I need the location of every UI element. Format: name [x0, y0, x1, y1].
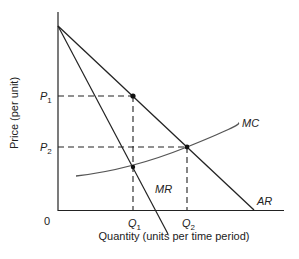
x-axis-label: Quantity (units per time period): [98, 230, 249, 242]
mc-curve: [76, 123, 239, 176]
origin-label: 0: [44, 215, 50, 227]
mc-label: MC: [242, 117, 259, 129]
mc-mr-point: [131, 165, 135, 169]
mr-line: [58, 26, 168, 234]
p1-point: [130, 93, 135, 98]
p2-point: [185, 145, 190, 150]
ar-label: AR: [256, 195, 272, 207]
y-axis-label: Price (per unit): [8, 77, 20, 149]
monopoly-diagram: Price (per unit) Quantity (units per tim…: [0, 0, 299, 259]
p1-label: P1: [40, 90, 52, 105]
mr-label: MR: [155, 183, 172, 195]
p2-label: P2: [40, 141, 52, 156]
